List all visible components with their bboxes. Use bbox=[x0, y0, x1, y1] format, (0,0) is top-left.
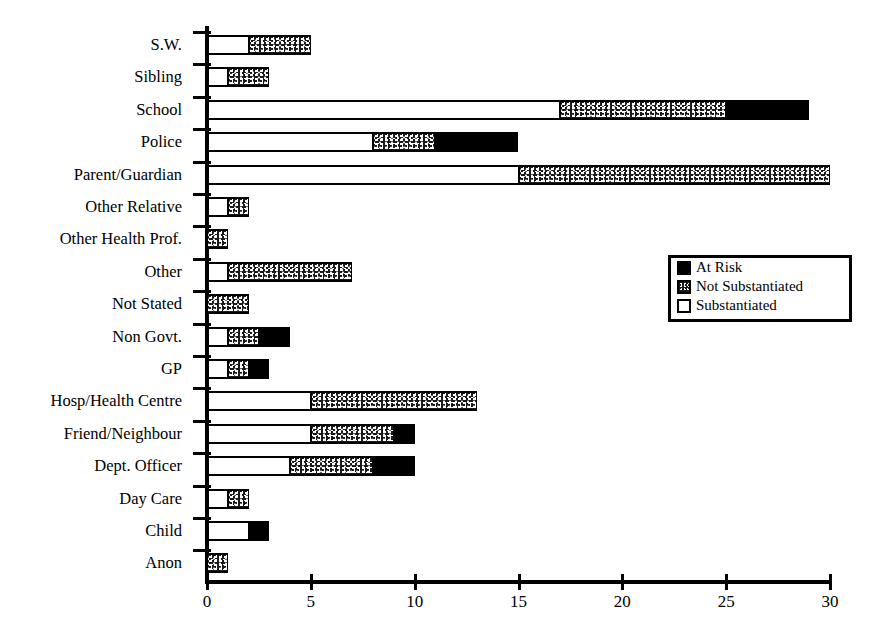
y-axis-tick bbox=[193, 387, 211, 390]
legend-item: At Risk bbox=[671, 258, 849, 277]
chart-legend: At RiskNot SubstantiatedSubstantiated bbox=[668, 255, 852, 322]
bar-row bbox=[207, 67, 269, 87]
bar-segment-not-substantiated bbox=[249, 35, 311, 55]
category-label: Child bbox=[0, 521, 190, 541]
y-axis-tick bbox=[193, 258, 211, 261]
bar-segment-substantiated bbox=[207, 197, 228, 217]
y-axis-tick bbox=[193, 31, 211, 34]
category-label: Anon bbox=[0, 553, 190, 573]
bar-segment-not-substantiated bbox=[519, 165, 831, 185]
category-label: Day Care bbox=[0, 489, 190, 509]
bar-segment-not-substantiated bbox=[228, 327, 259, 347]
bar-segment-not-substantiated bbox=[228, 262, 353, 282]
bar-segment-at-risk bbox=[249, 521, 270, 541]
white-square-icon bbox=[677, 299, 691, 313]
y-axis-tick bbox=[193, 452, 211, 455]
bar-row bbox=[207, 100, 809, 120]
category-label: Dept. Officer bbox=[0, 456, 190, 476]
bar-segment-substantiated bbox=[207, 67, 228, 87]
category-label: Other Relative bbox=[0, 197, 190, 217]
x-axis-tick-label: 0 bbox=[203, 592, 212, 612]
bar-segment-substantiated bbox=[207, 489, 228, 509]
bar-row bbox=[207, 521, 269, 541]
bar-row bbox=[207, 35, 311, 55]
y-axis-tick bbox=[193, 161, 211, 164]
x-axis-tick-label: 20 bbox=[614, 592, 631, 612]
category-label: Non Govt. bbox=[0, 327, 190, 347]
y-axis-tick bbox=[193, 290, 211, 293]
bar-segment-substantiated bbox=[207, 391, 311, 411]
y-axis-tick bbox=[193, 420, 211, 423]
category-label: Other Health Prof. bbox=[0, 229, 190, 249]
x-axis-tick-label: 5 bbox=[307, 592, 316, 612]
bar-segment-at-risk bbox=[726, 100, 809, 120]
bar-segment-substantiated bbox=[207, 165, 519, 185]
x-axis-tick bbox=[829, 574, 832, 590]
y-axis-tick bbox=[193, 517, 211, 520]
stippled-square-icon bbox=[677, 280, 691, 294]
bar-row bbox=[207, 553, 228, 573]
bar-segment-not-substantiated bbox=[311, 391, 477, 411]
category-label: Sibling bbox=[0, 67, 190, 87]
legend-label: At Risk bbox=[696, 260, 742, 275]
category-label: Parent/Guardian bbox=[0, 165, 190, 185]
bar-segment-not-substantiated bbox=[207, 553, 228, 573]
y-axis-tick bbox=[193, 549, 211, 552]
x-axis-tick bbox=[414, 574, 417, 590]
y-axis-tick bbox=[193, 225, 211, 228]
bar-row bbox=[207, 456, 415, 476]
bar-row bbox=[207, 165, 830, 185]
category-label: Not Stated bbox=[0, 294, 190, 314]
x-axis-tick-label: 25 bbox=[718, 592, 735, 612]
y-axis-tick bbox=[193, 63, 211, 66]
x-axis-tick-label: 15 bbox=[510, 592, 527, 612]
x-axis-tick-label: 10 bbox=[406, 592, 423, 612]
bar-row bbox=[207, 262, 352, 282]
bar-segment-not-substantiated bbox=[207, 229, 228, 249]
bar-segment-at-risk bbox=[373, 456, 415, 476]
y-axis-tick bbox=[193, 96, 211, 99]
bar-segment-not-substantiated bbox=[560, 100, 726, 120]
bar-segment-at-risk bbox=[249, 359, 270, 379]
bar-segment-at-risk bbox=[394, 424, 415, 444]
legend-label: Not Substantiated bbox=[696, 279, 803, 294]
bar-chart: report type by agency S.W.SiblingSchoolP… bbox=[0, 0, 872, 636]
bar-segment-not-substantiated bbox=[228, 197, 249, 217]
bar-segment-substantiated bbox=[207, 262, 228, 282]
bar-row bbox=[207, 391, 477, 411]
bar-segment-not-substantiated bbox=[373, 132, 435, 152]
category-label: S.W. bbox=[0, 35, 190, 55]
bar-segment-substantiated bbox=[207, 327, 228, 347]
bar-segment-not-substantiated bbox=[228, 359, 249, 379]
y-axis-tick bbox=[193, 128, 211, 131]
bar-segment-substantiated bbox=[207, 100, 560, 120]
bar-row bbox=[207, 424, 415, 444]
bar-segment-substantiated bbox=[207, 456, 290, 476]
bar-segment-not-substantiated bbox=[228, 67, 270, 87]
bar-row bbox=[207, 229, 228, 249]
y-axis-tick bbox=[193, 355, 211, 358]
bar-segment-not-substantiated bbox=[228, 489, 249, 509]
x-axis-tick bbox=[725, 574, 728, 590]
bar-segment-substantiated bbox=[207, 359, 228, 379]
category-label: Hosp/Health Centre bbox=[0, 391, 190, 411]
bar-row bbox=[207, 327, 290, 347]
legend-item: Not Substantiated bbox=[671, 277, 849, 296]
category-label: Police bbox=[0, 132, 190, 152]
bar-segment-substantiated bbox=[207, 521, 249, 541]
x-axis-tick bbox=[621, 574, 624, 590]
y-axis-tick bbox=[193, 323, 211, 326]
y-axis-tick bbox=[193, 485, 211, 488]
category-label: Friend/Neighbour bbox=[0, 424, 190, 444]
bar-segment-at-risk bbox=[435, 132, 518, 152]
legend-label: Substantiated bbox=[696, 298, 777, 313]
bar-segment-substantiated bbox=[207, 35, 249, 55]
bar-segment-not-substantiated bbox=[311, 424, 394, 444]
bar-segment-at-risk bbox=[259, 327, 290, 347]
bar-segment-not-substantiated bbox=[207, 294, 249, 314]
bar-row bbox=[207, 359, 269, 379]
legend-item: Substantiated bbox=[671, 296, 849, 315]
x-axis-tick bbox=[518, 574, 521, 590]
bar-segment-substantiated bbox=[207, 424, 311, 444]
plot-area: S.W.SiblingSchoolPoliceParent/GuardianOt… bbox=[0, 22, 872, 636]
